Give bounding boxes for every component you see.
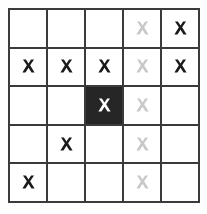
cell-r1c5[interactable] (162, 10, 200, 49)
x-mark-dark-icon (58, 58, 75, 75)
cell-r2c4[interactable] (124, 49, 162, 88)
cell-r4c5[interactable] (162, 126, 200, 165)
cell-r2c1[interactable] (10, 49, 48, 88)
cell-r4c3[interactable] (86, 126, 124, 165)
cell-r3c3[interactable] (86, 87, 124, 126)
cell-r4c4[interactable] (124, 126, 162, 165)
x-mark-light-icon (134, 97, 151, 114)
x-mark-dark-icon (172, 58, 189, 75)
x-mark-light-icon (134, 20, 151, 37)
cell-r3c2[interactable] (48, 87, 86, 126)
cell-r2c3[interactable] (86, 49, 124, 88)
x-mark-light-icon (134, 136, 151, 153)
cell-r5c3[interactable] (86, 164, 124, 203)
cell-r1c3[interactable] (86, 10, 124, 49)
x-mark-light-icon (134, 174, 151, 191)
cell-r3c1[interactable] (10, 87, 48, 126)
cell-r5c4[interactable] (124, 164, 162, 203)
cell-r3c5[interactable] (162, 87, 200, 126)
x-mark-white-icon (96, 97, 113, 114)
x-mark-dark-icon (20, 58, 37, 75)
cell-r1c1[interactable] (10, 10, 48, 49)
cell-r2c5[interactable] (162, 49, 200, 88)
cell-r5c1[interactable] (10, 164, 48, 203)
cell-r2c2[interactable] (48, 49, 86, 88)
cell-r1c4[interactable] (124, 10, 162, 49)
x-mark-dark-icon (58, 136, 75, 153)
cell-r4c2[interactable] (48, 126, 86, 165)
diagram-canvas (0, 0, 207, 214)
x-mark-dark-icon (172, 20, 189, 37)
cell-r4c1[interactable] (10, 126, 48, 165)
x-mark-light-icon (134, 58, 151, 75)
x-mark-dark-icon (20, 174, 37, 191)
cell-r5c5[interactable] (162, 164, 200, 203)
cell-r3c4[interactable] (124, 87, 162, 126)
cell-r1c2[interactable] (48, 10, 86, 49)
x-mark-dark-icon (96, 58, 113, 75)
grid-table (8, 8, 200, 203)
cell-r5c2[interactable] (48, 164, 86, 203)
